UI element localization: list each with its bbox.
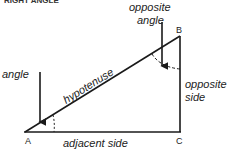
label-opposite-side-line2: side [185,91,205,103]
angle-arc-a [53,115,54,132]
label-angle: angle [2,68,29,80]
caption-title: RIGHT ANGLE [4,0,59,5]
label-adjacent-side: adjacent side [63,137,128,149]
triangle [24,36,181,132]
label-opposite-angle-line1: opposite [129,1,171,13]
vertex-label-c: C [176,136,183,146]
label-hypotenuse: hypotenuse [61,66,116,106]
angle-arc-b [152,54,180,69]
vertex-label-b: B [176,25,182,35]
vertex-label-a: A [25,136,31,146]
label-opposite-side-line1: opposite [185,78,227,90]
hypotenuse-line [25,36,180,132]
label-opposite-angle-line2: angle [137,14,164,26]
right-triangle-diagram: RIGHT ANGLE angle opposite angle hypoten… [0,0,239,149]
